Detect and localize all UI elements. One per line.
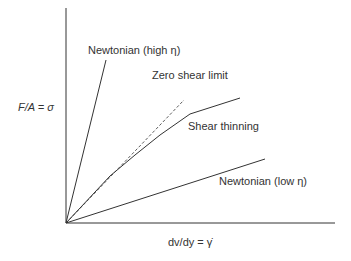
x-axis-label: dv/dy = γ̇ <box>168 236 212 248</box>
label-newtonian-high: Newtonian (high η) <box>88 44 180 56</box>
newtonian-high-line <box>66 60 106 223</box>
label-shear-thinning: Shear thinning <box>188 120 259 132</box>
plot-area <box>0 0 351 261</box>
label-newtonian-low: Newtonian (low η) <box>219 175 307 187</box>
y-axis-label: F/A = σ <box>18 101 54 113</box>
rheology-diagram: Newtonian (high η) Zero shear limit Shea… <box>0 0 351 261</box>
label-zero-shear: Zero shear limit <box>152 69 228 81</box>
